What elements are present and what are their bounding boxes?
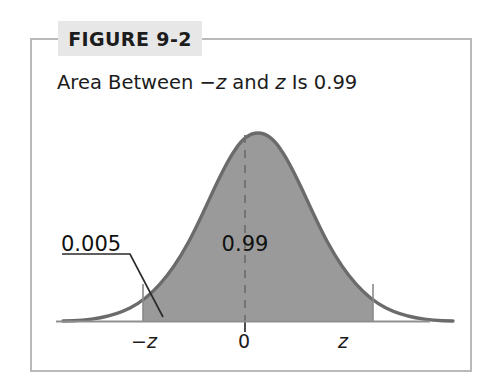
- subtitle-text-before: Area Between: [57, 71, 200, 94]
- subtitle-text-middle: and: [226, 71, 275, 94]
- subtitle-minus-z: −z: [200, 71, 227, 94]
- figure-container: FIGURE 9-2 Area Between −z and z Is 0.99…: [0, 0, 502, 388]
- axis-label-zero: 0: [238, 330, 250, 352]
- axis-label-pos-z: z: [338, 330, 348, 352]
- subtitle-z: z: [275, 71, 285, 94]
- label-center-area: 0.99: [196, 232, 294, 256]
- label-tail-area: 0.005: [61, 232, 121, 256]
- axis-label-neg-z: −z: [131, 330, 157, 352]
- subtitle-text-after: Is 0.99: [286, 71, 358, 94]
- figure-banner-label: FIGURE 9-2: [68, 28, 192, 50]
- figure-banner: FIGURE 9-2: [58, 21, 202, 56]
- figure-subtitle: Area Between −z and z Is 0.99: [57, 71, 357, 94]
